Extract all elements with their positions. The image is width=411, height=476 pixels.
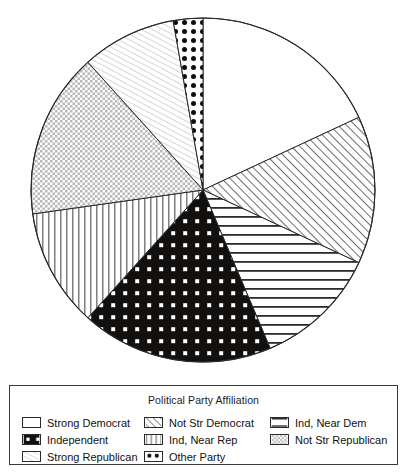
legend-swatch-black-white-dots-icon xyxy=(22,434,41,445)
legend-grid: Strong DemocratNot Str DemocratInd, Near… xyxy=(10,414,397,465)
legend-entry-label: Other Party xyxy=(169,451,225,463)
legend-entry-label: Ind, Near Dem xyxy=(295,417,367,429)
legend-entry: Ind, Near Rep xyxy=(144,434,270,446)
legend-swatch-vertical-lines-icon xyxy=(144,434,163,445)
legend-swatch-solid-white-icon xyxy=(22,417,41,428)
legend-entry: Strong Democrat xyxy=(22,417,144,429)
legend-entry-label: Not Str Democrat xyxy=(169,417,254,429)
pie-chart-svg xyxy=(0,0,411,380)
legend-entry-label: Strong Democrat xyxy=(47,417,130,429)
pie-slices-group xyxy=(31,18,375,362)
legend-entry: Not Str Republican xyxy=(270,434,398,446)
legend-swatch-horizontal-lines-icon xyxy=(270,417,289,428)
legend-swatch-diagonal-up-icon xyxy=(144,417,163,428)
legend-entry: Strong Republican xyxy=(22,451,144,463)
legend-entry-label: Not Str Republican xyxy=(295,434,387,446)
legend-entry-label: Independent xyxy=(47,434,108,446)
legend-entry-label: Ind, Near Rep xyxy=(169,434,237,446)
legend-swatch-diagonal-down-fine-icon xyxy=(22,451,41,462)
legend-entry-label: Strong Republican xyxy=(47,451,138,463)
legend-entry: Ind, Near Dem xyxy=(270,417,398,429)
legend-entry: Not Str Democrat xyxy=(144,417,270,429)
pie-chart-area xyxy=(0,0,411,380)
legend-entry: Independent xyxy=(22,434,144,446)
legend-box: Political Party Affiliation Strong Democ… xyxy=(9,385,398,465)
legend-title: Political Party Affiliation xyxy=(10,394,397,406)
legend-entry: Other Party xyxy=(144,451,270,463)
legend-swatch-crosshatch-grid-icon xyxy=(270,434,289,445)
legend-swatch-white-black-dots-icon xyxy=(144,451,163,462)
